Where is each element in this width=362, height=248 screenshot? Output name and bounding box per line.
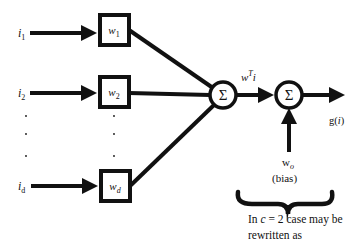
weight-label-2: w2 (100, 86, 128, 101)
input-label-2-sub: 2 (21, 93, 25, 102)
caption-eq: = (266, 213, 278, 225)
caption-line-2: rewritten as (248, 227, 343, 243)
caption: In c = 2 case may be rewritten as (248, 211, 343, 243)
weight-label-1: w1 (100, 24, 128, 39)
output-label: g(i) (329, 116, 344, 127)
sum-symbol-2: Σ (276, 82, 302, 108)
input-label-d-sub: d (21, 186, 25, 195)
bias-weight-sub: o (290, 162, 294, 171)
sum-symbol-1: Σ (210, 82, 236, 108)
weight-label-d-base: w (109, 180, 116, 192)
intermediate-label-tail: i (253, 71, 256, 83)
caption-pre: In (248, 213, 260, 225)
output-label-close: ) (341, 115, 345, 126)
weight-label-1-base: w (108, 24, 115, 36)
input-label-d: id (18, 180, 25, 195)
output-label-base: g( (329, 115, 338, 126)
bias-weight-label: wo (282, 157, 294, 171)
weight-label-d-sub: d (117, 186, 121, 195)
weight-label-d: wd (101, 180, 129, 195)
caption-post: case may be (284, 213, 343, 225)
input-label-1-sub: 1 (21, 33, 25, 42)
intermediate-label: wTi (241, 70, 256, 83)
input-label-1: i1 (18, 27, 25, 42)
weight-label-2-base: w (108, 86, 115, 98)
caption-line-1: In c = 2 case may be (248, 211, 343, 227)
input-label-2: i2 (18, 87, 25, 102)
ellipsis-dots (25, 115, 115, 157)
edge-w2-sum (129, 93, 210, 95)
bias-note: (bias) (272, 173, 297, 184)
weight-label-1-sub: 1 (116, 30, 120, 39)
weight-label-2-sub: 2 (116, 92, 120, 101)
edge-wd-sum (130, 105, 214, 186)
bias-weight-base: w (282, 156, 290, 168)
edge-w1-sum (129, 30, 213, 88)
